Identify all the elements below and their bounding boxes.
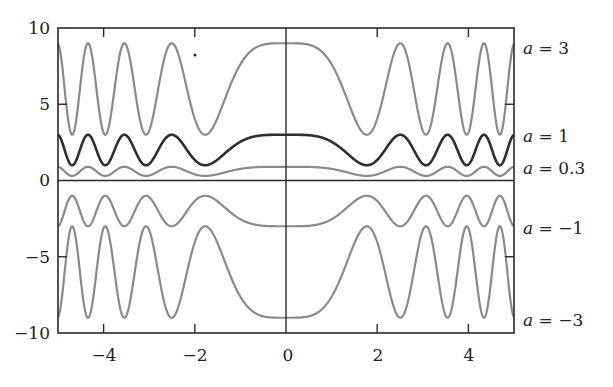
y-tick-labels: −10 −5 0 5 10 [14,18,50,343]
series-label-a0.3: a = 0.3 [523,158,585,178]
x-tick-label: −4 [91,345,116,365]
y-tick-label: −5 [25,247,50,267]
x-tick-label: 4 [464,345,475,365]
y-tick-label: 10 [28,18,50,38]
y-tick-label: −10 [14,323,50,343]
line-chart: −4 −2 0 2 4 −10 −5 0 5 10 a = 3 a = 1 a … [0,0,613,387]
series-label-a-3: a = −3 [523,310,583,330]
y-tick-label: 5 [39,94,50,114]
x-tick-label: 0 [283,345,294,365]
series-label-a-1: a = −1 [523,218,583,238]
x-tick-label: 2 [373,345,384,365]
x-tick-label: −2 [182,345,207,365]
stray-dot [194,54,197,57]
series-labels: a = 3 a = 1 a = 0.3 a = −1 a = −3 [523,38,585,330]
x-tick-labels: −4 −2 0 2 4 [91,345,474,365]
series-label-a1: a = 1 [523,126,569,146]
series-label-a3: a = 3 [523,38,569,58]
y-tick-label: 0 [39,170,50,190]
